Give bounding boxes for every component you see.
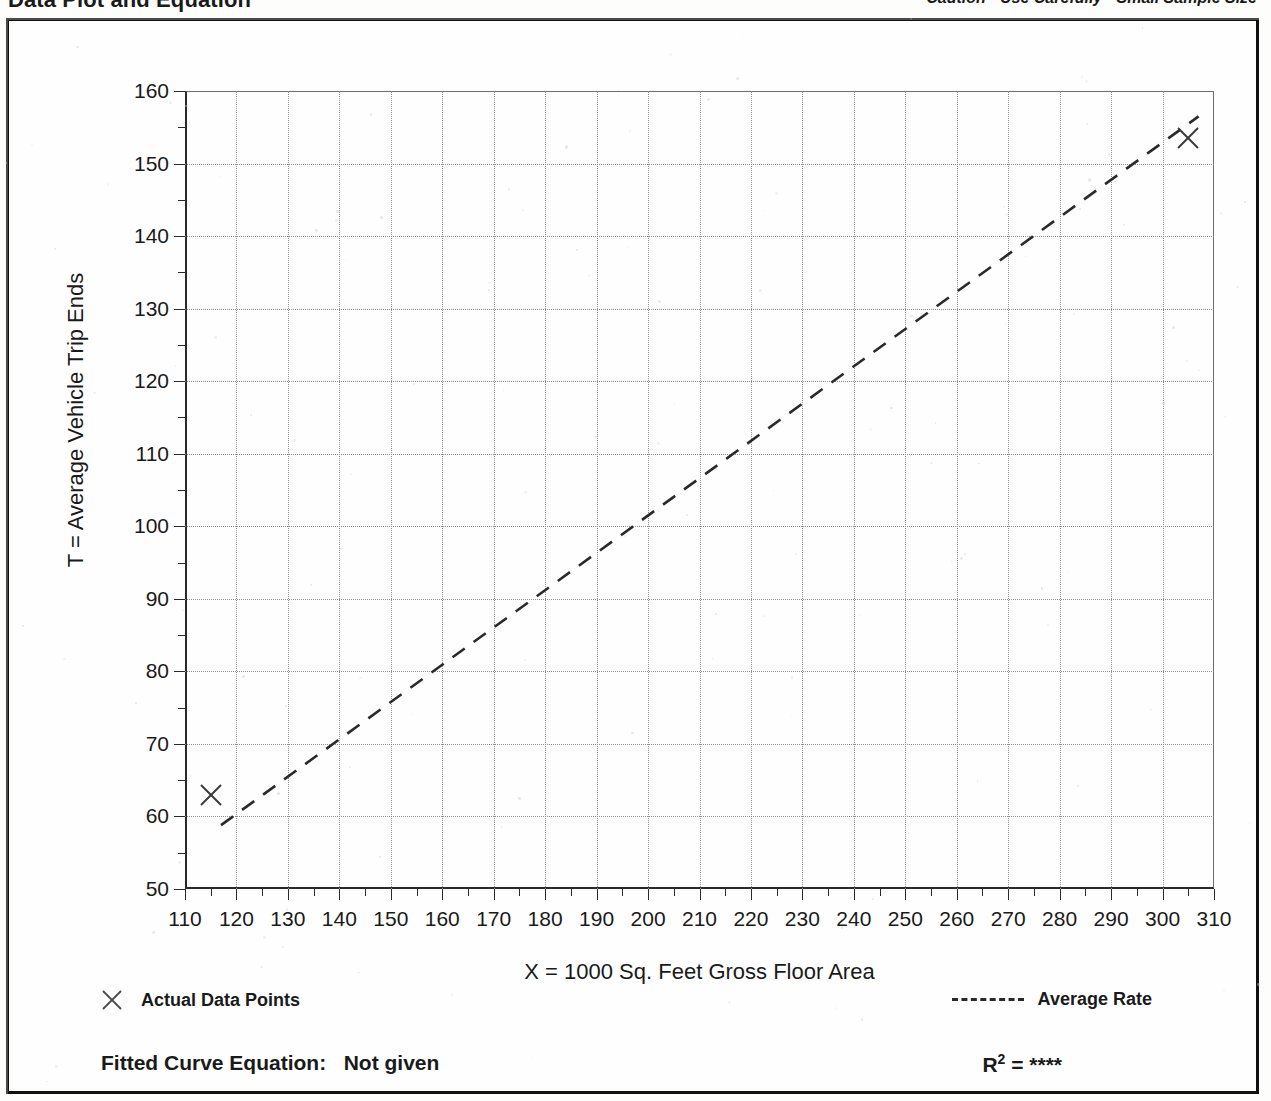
x-axis-tick: [648, 889, 649, 900]
x-axis-minor-tick: [365, 889, 366, 896]
x-axis-tick-label: 120: [219, 907, 254, 931]
scan-artifact: [669, 53, 672, 56]
scan-artifact: [860, 614, 861, 615]
scan-artifact: [373, 915, 375, 917]
scan-artifact: [362, 746, 364, 748]
x-axis-tick: [391, 889, 392, 900]
r-squared-label: R: [982, 1053, 997, 1076]
scan-artifact: [1068, 571, 1069, 572]
scan-artifact: [175, 365, 177, 367]
scan-artifact: [795, 553, 797, 555]
x-axis-tick-label: 170: [476, 907, 511, 931]
legend-label-average-rate: Average Rate: [1038, 989, 1152, 1010]
y-axis-tick-label: 140: [134, 224, 169, 248]
y-axis-minor-tick: [178, 563, 185, 564]
x-axis-tick-label: 280: [1042, 907, 1077, 931]
scan-artifact: [841, 926, 843, 928]
average-rate-line: [185, 91, 1214, 889]
fitted-curve-equation-value: Not given: [344, 1051, 440, 1074]
scan-artifact: [960, 557, 963, 560]
r-squared-value: ****: [1029, 1053, 1062, 1076]
y-axis-minor-tick: [178, 345, 185, 346]
scan-artifact: [508, 188, 510, 190]
x-axis-minor-tick: [519, 889, 520, 896]
scan-artifact: [1085, 80, 1088, 83]
x-axis-tick-label: 140: [322, 907, 357, 931]
x-axis-tick-label: 310: [1196, 907, 1231, 931]
scan-artifact: [807, 816, 809, 818]
y-axis-minor-tick: [178, 272, 185, 273]
y-axis-tick-label: 80: [146, 659, 169, 683]
x-axis-tick: [494, 889, 495, 900]
scan-artifact: [286, 908, 288, 910]
scan-artifact: [153, 657, 154, 658]
y-axis-tick: [174, 671, 185, 672]
x-axis-minor-tick: [262, 889, 263, 896]
scan-artifact: [349, 766, 350, 767]
scan-artifact: [263, 936, 266, 939]
y-axis-minor-tick: [178, 200, 185, 201]
y-axis-tick: [174, 454, 185, 455]
x-axis-tick-label: 190: [579, 907, 614, 931]
caution-note: Caution - Use Carefully - Small Sample S…: [926, 0, 1257, 7]
x-axis-tick-label: 180: [528, 907, 563, 931]
y-axis-tick: [174, 91, 185, 92]
y-axis-tick: [174, 381, 185, 382]
scan-artifact: [658, 300, 661, 303]
scan-artifact: [1079, 208, 1081, 210]
r-squared-equals: =: [1011, 1053, 1023, 1076]
x-axis-tick: [1060, 889, 1061, 900]
y-axis-tick: [174, 744, 185, 745]
y-axis-tick: [174, 889, 185, 890]
y-axis-tick-label: 130: [134, 297, 169, 321]
scan-artifact: [315, 229, 318, 232]
x-axis-tick: [957, 889, 958, 900]
x-axis-tick: [1008, 889, 1009, 900]
x-axis-tick-label: 210: [682, 907, 717, 931]
scan-artifact: [1162, 402, 1165, 405]
x-axis-tick-label: 250: [888, 907, 923, 931]
scan-artifact: [277, 792, 280, 795]
x-axis-tick-label: 130: [270, 907, 305, 931]
x-axis-minor-tick: [622, 889, 623, 896]
y-axis-tick: [174, 309, 185, 310]
scan-artifact: [686, 514, 688, 516]
scan-artifact: [345, 259, 346, 260]
y-axis-tick-label: 160: [134, 79, 169, 103]
x-axis-tick-label: 230: [785, 907, 820, 931]
legend-item-data-points: Actual Data Points: [101, 989, 300, 1011]
scan-artifact: [628, 247, 629, 248]
x-axis-minor-tick: [880, 889, 881, 896]
scan-artifact: [1005, 213, 1008, 216]
scan-artifact: [775, 192, 778, 195]
x-axis-minor-tick: [1188, 889, 1189, 896]
x-axis-minor-tick: [211, 889, 212, 896]
scan-artifact: [1257, 983, 1260, 986]
x-axis-tick: [185, 889, 186, 900]
x-axis-tick: [442, 889, 443, 900]
x-axis-tick: [1163, 889, 1164, 900]
x-axis-minor-tick: [1137, 889, 1138, 896]
y-axis-tick-label: 70: [146, 732, 169, 756]
page-header: Data Plot and Equation Caution - Use Car…: [0, 0, 1271, 16]
scan-artifact: [565, 145, 568, 148]
x-axis-minor-tick: [725, 889, 726, 896]
x-axis-minor-tick: [417, 889, 418, 896]
y-axis-minor-tick: [178, 853, 185, 854]
scan-artifact: [178, 861, 181, 864]
y-axis-title: T = Average Vehicle Trip Ends: [61, 21, 91, 819]
scan-artifact: [1110, 674, 1112, 676]
scan-artifact: [501, 826, 503, 828]
x-axis-tick-label: 160: [425, 907, 460, 931]
x-axis-minor-tick: [468, 889, 469, 896]
x-axis-tick: [236, 889, 237, 900]
x-axis-tick: [288, 889, 289, 900]
y-axis-tick: [174, 526, 185, 527]
y-axis-tick: [174, 599, 185, 600]
legend: Actual Data Points Average Rate: [9, 989, 1262, 1029]
scan-artifact: [1223, 989, 1225, 991]
equation-row: Fitted Curve Equation: Not given R2 = **…: [9, 1051, 1262, 1091]
x-axis-tick-label: 260: [939, 907, 974, 931]
x-axis-tick: [597, 889, 598, 900]
scan-artifact: [285, 705, 287, 707]
